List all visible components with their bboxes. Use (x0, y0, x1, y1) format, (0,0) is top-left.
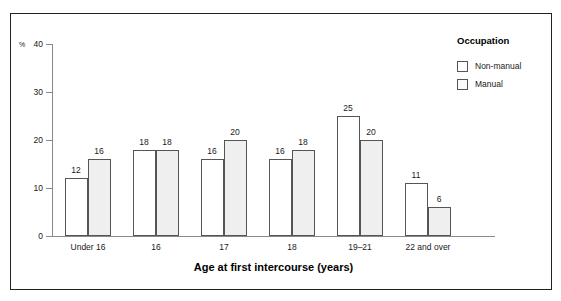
bar-nonmanual-5 (405, 183, 428, 236)
bar-value-manual-5: 6 (427, 195, 451, 204)
y-tick-mark-40 (46, 44, 52, 45)
bar-value-nonmanual-4: 25 (336, 104, 360, 113)
bar-value-manual-4: 20 (359, 128, 383, 137)
x-axis-line (52, 236, 495, 237)
bar-nonmanual-2 (201, 159, 224, 236)
bar-manual-1 (156, 150, 179, 236)
y-tick-mark-30 (46, 92, 52, 93)
bar-nonmanual-1 (133, 150, 156, 236)
bar-manual-2 (224, 140, 247, 236)
y-tick-label-40: 40 (23, 40, 43, 49)
legend-swatch-non-manual (457, 61, 468, 72)
bar-manual-0 (88, 159, 111, 236)
bar-value-manual-1: 18 (155, 138, 179, 147)
legend-label-non-manual: Non-manual (475, 62, 521, 71)
bar-value-nonmanual-2: 16 (200, 147, 224, 156)
bar-nonmanual-0 (65, 178, 88, 236)
bar-nonmanual-4 (337, 116, 360, 236)
legend-item-manual: Manual (457, 79, 547, 90)
bar-value-nonmanual-0: 12 (64, 166, 88, 175)
bar-value-nonmanual-1: 18 (132, 138, 156, 147)
y-tick-label-30: 30 (23, 88, 43, 97)
y-tick-mark-0 (46, 236, 52, 237)
legend-title: Occupation (457, 36, 547, 46)
y-tick-label-10: 10 (23, 184, 43, 193)
bar-value-manual-3: 18 (291, 138, 315, 147)
y-tick-label-20: 20 (23, 136, 43, 145)
y-axis-line (52, 44, 53, 236)
y-tick-label-0: 0 (23, 232, 43, 241)
x-axis-title: Age at first intercourse (years) (52, 262, 495, 273)
y-tick-mark-10 (46, 188, 52, 189)
bar-nonmanual-3 (269, 159, 292, 236)
bar-value-manual-0: 16 (87, 147, 111, 156)
bar-manual-4 (360, 140, 383, 236)
legend: Occupation Non-manual Manual (457, 36, 547, 97)
legend-swatch-manual (457, 79, 468, 90)
figure: % 40 30 20 10 0 12 16 Under 16 18 18 16 … (0, 0, 561, 301)
bar-value-nonmanual-5: 11 (404, 171, 428, 180)
x-tick-label-5: 22 and over (383, 243, 473, 252)
bar-manual-5 (428, 207, 451, 236)
bar-value-manual-2: 20 (223, 128, 247, 137)
bar-value-nonmanual-3: 16 (268, 147, 292, 156)
plot-area: % 40 30 20 10 0 12 16 Under 16 18 18 16 … (0, 0, 561, 301)
y-tick-mark-20 (46, 140, 52, 141)
bar-manual-3 (292, 150, 315, 236)
legend-item-non-manual: Non-manual (457, 61, 547, 72)
legend-label-manual: Manual (475, 80, 503, 89)
